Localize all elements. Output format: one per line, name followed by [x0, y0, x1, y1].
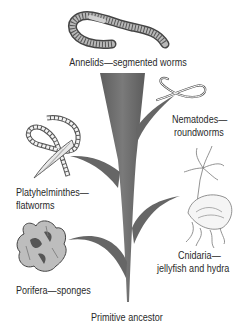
primitive-ancestor-label: Primitive ancestor — [91, 311, 163, 323]
jellyfish-hydra-icon — [184, 146, 232, 248]
flatworm-icon — [28, 118, 78, 178]
phylogeny-diagram — [0, 0, 240, 331]
cnidaria-label-line2: jellyfish and hydra — [157, 262, 229, 274]
annelid-worm-icon — [72, 16, 165, 45]
platyhelminthes-label-line1: Platyhelminthes— — [16, 186, 89, 198]
nematodes-label-line1: Nematodes— — [172, 113, 227, 125]
platyhelminthes-label-line2: flatworms — [16, 199, 55, 211]
cnidaria-label-line1: Cnidaria— — [178, 249, 221, 261]
branch-porifera — [68, 236, 127, 278]
porifera-label: Porifera—sponges — [16, 284, 91, 296]
nematode-worm-icon — [157, 78, 205, 100]
annelids-label: Annelids—segmented worms — [69, 56, 183, 68]
branch-cnidaria — [132, 196, 180, 244]
nematodes-label-line2: roundworms — [174, 126, 224, 138]
branch-platyhelminthes — [70, 156, 120, 188]
sponge-icon — [17, 221, 66, 271]
